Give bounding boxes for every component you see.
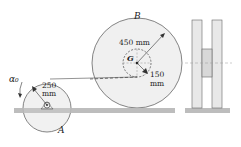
label-b: B	[133, 11, 141, 21]
label-150: 150	[150, 70, 165, 79]
label-250-mm: mm	[42, 89, 56, 98]
label-150-mm: mm	[150, 79, 164, 88]
label-a: A	[57, 125, 65, 135]
diagram-canvas: B 450 mm G 150 mm 250 mm α₀ A	[0, 0, 241, 147]
label-450: 450 mm	[119, 38, 150, 47]
ground-side	[185, 108, 230, 113]
label-alpha: α₀	[9, 74, 19, 84]
label-g: G	[127, 53, 134, 63]
